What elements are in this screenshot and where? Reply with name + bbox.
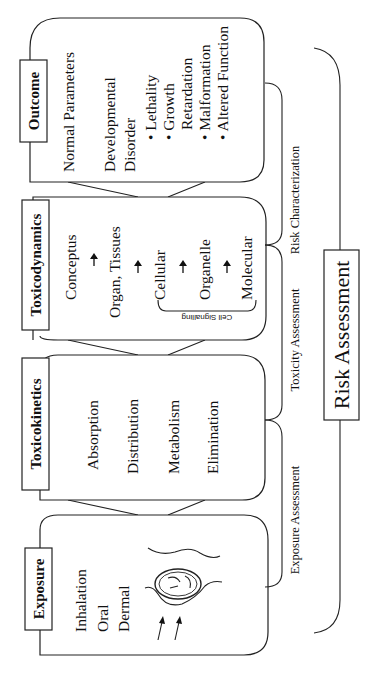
outcome-bullet: Lethality bbox=[142, 74, 159, 130]
exposure-title: Exposure bbox=[31, 558, 47, 619]
toxicokinetics-item: Elimination bbox=[204, 401, 221, 474]
outcome-item: Developmental bbox=[101, 77, 118, 172]
toxicodynamics-item: Conceptus bbox=[62, 235, 79, 300]
toxicokinetics-item: Metabolism bbox=[165, 400, 182, 474]
toxicodynamics-item: Cellular bbox=[151, 249, 168, 300]
outcome-box: Outcome Normal Parameters Developmental … bbox=[20, 18, 264, 182]
outcome-title: Outcome bbox=[26, 72, 42, 131]
outcome-bullet: Altered Function bbox=[214, 26, 231, 132]
outcome-item: Disorder bbox=[121, 117, 138, 172]
outcome-item: Normal Parameters bbox=[60, 52, 77, 172]
svg-text:• Lethality: • Lethality bbox=[142, 74, 159, 140]
exposure-item: Dermal bbox=[115, 586, 132, 632]
toxicity-assessment-label: Toxicity Assessment bbox=[288, 288, 302, 391]
assessment-brackets bbox=[265, 83, 282, 587]
toxicodynamics-item: Organelle bbox=[196, 239, 213, 300]
outcome-bullet-continued: Retardation bbox=[178, 57, 195, 130]
exposure-assessment-label: Exposure Assessment bbox=[288, 465, 302, 574]
toxicokinetics-box: Toxicokinetics Absorption Distribution M… bbox=[22, 355, 265, 500]
toxicodynamics-item: Molecular bbox=[238, 235, 255, 300]
toxicokinetics-item: Distribution bbox=[124, 399, 141, 474]
toxicodynamics-title: Toxicodynamics bbox=[28, 213, 44, 316]
outcome-bullet: Growth bbox=[160, 83, 177, 131]
svg-text:• Malformation: • Malformation bbox=[196, 44, 213, 140]
risk-characterization-label: Risk Characterization bbox=[288, 145, 302, 254]
exposure-box: Exposure Inhalation Oral Dermal bbox=[25, 515, 268, 655]
svg-text:• Growth: • Growth bbox=[160, 83, 177, 140]
exposure-item: Oral bbox=[94, 604, 111, 632]
toxicodynamics-item: Organ, Tissues bbox=[106, 226, 123, 318]
cell-signalling-label: Cell Signalling bbox=[182, 313, 233, 322]
toxicodynamics-box: Toxicodynamics Conceptus Organ, Tissues … bbox=[22, 197, 266, 340]
toxicokinetics-item: Absorption bbox=[84, 400, 101, 470]
svg-text:• Altered Function: • Altered Function bbox=[214, 26, 231, 140]
risk-assessment-diagram: Outcome Normal Parameters Developmental … bbox=[0, 0, 376, 677]
toxicokinetics-title: Toxicokinetics bbox=[28, 378, 44, 469]
exposure-item: Inhalation bbox=[72, 569, 89, 632]
outcome-bullet: Malformation bbox=[196, 44, 213, 130]
risk-assessment-label: Risk Assessment bbox=[329, 261, 354, 410]
